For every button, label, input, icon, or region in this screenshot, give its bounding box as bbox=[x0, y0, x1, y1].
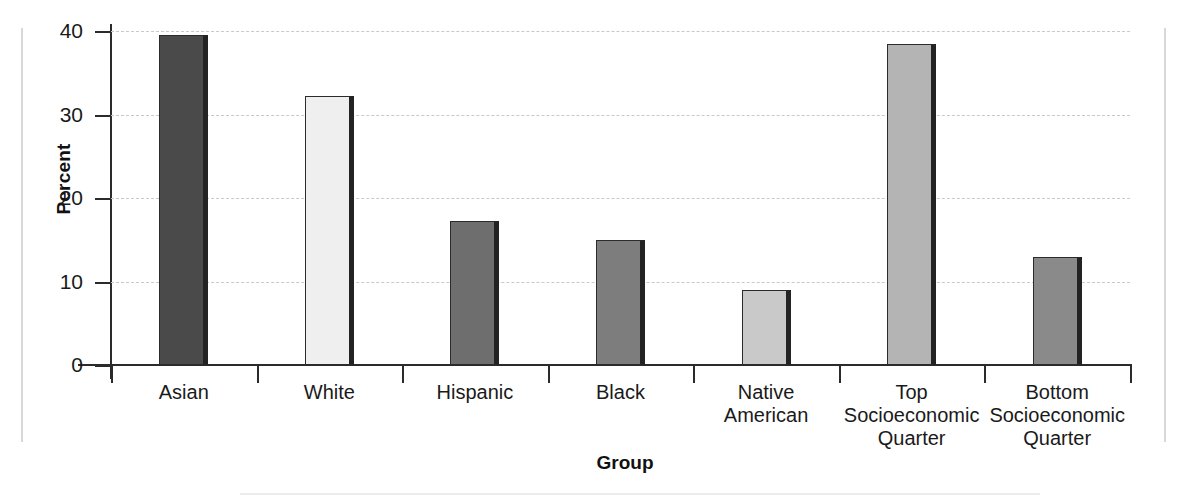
plot-area bbox=[111, 31, 1130, 365]
y-tick-label-20: 20 bbox=[39, 187, 83, 208]
x-axis-label-bottom-socioeconomic-quarter: BottomSocioeconomicQuarter bbox=[984, 381, 1130, 450]
x-axis-label-hispanic: Hispanic bbox=[402, 381, 548, 404]
gridline-40 bbox=[111, 31, 1130, 33]
bar-native-american bbox=[742, 290, 791, 365]
y-tick-20 bbox=[95, 198, 111, 200]
x-axis-label-native-american: Native American bbox=[693, 381, 839, 427]
gridline-30 bbox=[111, 115, 1130, 117]
bar-white bbox=[305, 96, 354, 365]
y-tick-label-0: 0 bbox=[39, 354, 83, 375]
bar-hispanic bbox=[450, 221, 499, 365]
x-axis-label-top-socioeconomic-quarter: TopSocioeconomicQuarter bbox=[839, 381, 985, 450]
x-label-line: Hispanic bbox=[402, 381, 548, 404]
y-tick-30 bbox=[95, 115, 111, 117]
figure-left-rule bbox=[21, 28, 23, 442]
x-label-line: Native American bbox=[693, 381, 839, 427]
figure-bottom-rule bbox=[240, 493, 1040, 495]
y-tick-0 bbox=[95, 365, 111, 367]
x-label-line: Socioeconomic bbox=[984, 404, 1130, 427]
figure-right-rule bbox=[1164, 28, 1166, 442]
bar-top-socioeconomic-quarter bbox=[887, 44, 936, 365]
y-tick-40 bbox=[95, 31, 111, 33]
y-tick-label-30: 30 bbox=[39, 104, 83, 125]
x-label-line: Quarter bbox=[984, 427, 1130, 450]
bar-asian bbox=[159, 35, 208, 365]
x-label-line: White bbox=[257, 381, 403, 404]
y-tick-label-40: 40 bbox=[39, 20, 83, 41]
x-tick-7 bbox=[1130, 366, 1132, 383]
x-label-line: Bottom bbox=[984, 381, 1130, 404]
x-axis-title: Group bbox=[565, 452, 685, 474]
x-label-line: Quarter bbox=[839, 427, 985, 450]
x-axis-label-asian: Asian bbox=[111, 381, 257, 404]
x-label-line: Asian bbox=[111, 381, 257, 404]
bar-black bbox=[596, 240, 645, 365]
x-label-line: Socioeconomic bbox=[839, 404, 985, 427]
y-tick-label-10: 10 bbox=[39, 271, 83, 292]
x-label-line: Top bbox=[839, 381, 985, 404]
gridline-20 bbox=[111, 198, 1130, 200]
x-axis-label-black: Black bbox=[548, 381, 694, 404]
y-axis-title: Percent bbox=[53, 109, 75, 249]
figure-canvas: Percent Group 010203040 AsianWhiteHispan… bbox=[0, 0, 1189, 503]
x-label-line: Black bbox=[548, 381, 694, 404]
bar-bottom-socioeconomic-quarter bbox=[1033, 257, 1082, 365]
x-axis-label-white: White bbox=[257, 381, 403, 404]
y-tick-10 bbox=[95, 282, 111, 284]
